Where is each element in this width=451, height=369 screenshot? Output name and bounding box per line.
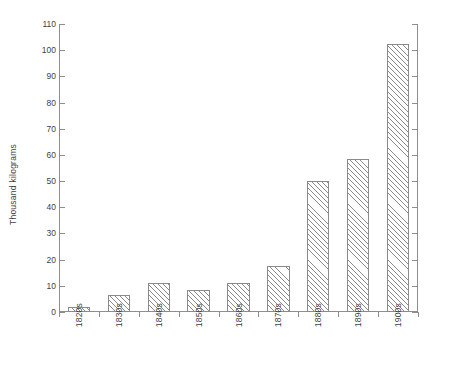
y-axis-title: Thousand kilograms: [0, 0, 26, 369]
y-axis-tick-label: 70: [47, 124, 56, 133]
x-axis-tick-mark: [258, 312, 259, 317]
x-axis-tick-mark: [298, 312, 299, 317]
y-axis-tick-label: 10: [47, 282, 56, 291]
x-axis-tick-label-group: 1820s1830s1840s1850s1860s1870s1880s1890s…: [59, 318, 418, 369]
x-axis-tick-mark: [338, 312, 339, 317]
y-axis-tick-label: 30: [47, 229, 56, 238]
y-axis-tick-label-group: 0102030405060708090100110: [30, 0, 56, 369]
x-axis-tick-mark: [219, 312, 220, 317]
y-axis-tick-label: 20: [47, 255, 56, 264]
plot-area: [59, 24, 418, 312]
y-axis-tick-label: 110: [42, 20, 56, 29]
x-axis-tick-label: 1830s: [112, 303, 126, 347]
y-axis-tick-label: 60: [47, 151, 56, 160]
x-axis-tick-label: 1900s: [391, 303, 405, 347]
x-axis-tick-label: 1890s: [351, 303, 365, 347]
x-axis-tick-mark: [139, 312, 140, 317]
x-axis-tick-label: 1870s: [271, 303, 285, 347]
y-axis-tick-label: 0: [51, 308, 56, 317]
y-axis-tick-label: 50: [47, 177, 56, 186]
bar: [347, 159, 369, 312]
x-axis-tick-mark: [179, 312, 180, 317]
x-axis-tick-label: 1840s: [152, 303, 166, 347]
bar-chart-figure: Thousand kilograms 010203040506070809010…: [0, 0, 451, 369]
bar: [387, 44, 409, 312]
bar: [307, 181, 329, 312]
x-axis-tick-mark: [418, 312, 419, 317]
y-axis-tick-label: 40: [47, 203, 56, 212]
x-axis-tick-label: 1860s: [232, 303, 246, 347]
bar-series-group: [59, 24, 418, 312]
y-axis-tick-label: 90: [47, 72, 56, 81]
x-axis-tick-mark: [59, 312, 60, 317]
x-axis-tick-label: 1820s: [72, 303, 86, 347]
y-axis-tick-label: 100: [42, 46, 56, 55]
x-axis-tick-mark: [378, 312, 379, 317]
x-axis-tick-mark: [99, 312, 100, 317]
x-axis-tick-label: 1880s: [311, 303, 325, 347]
x-axis-tick-label: 1850s: [192, 303, 206, 347]
y-axis-tick-label: 80: [47, 98, 56, 107]
